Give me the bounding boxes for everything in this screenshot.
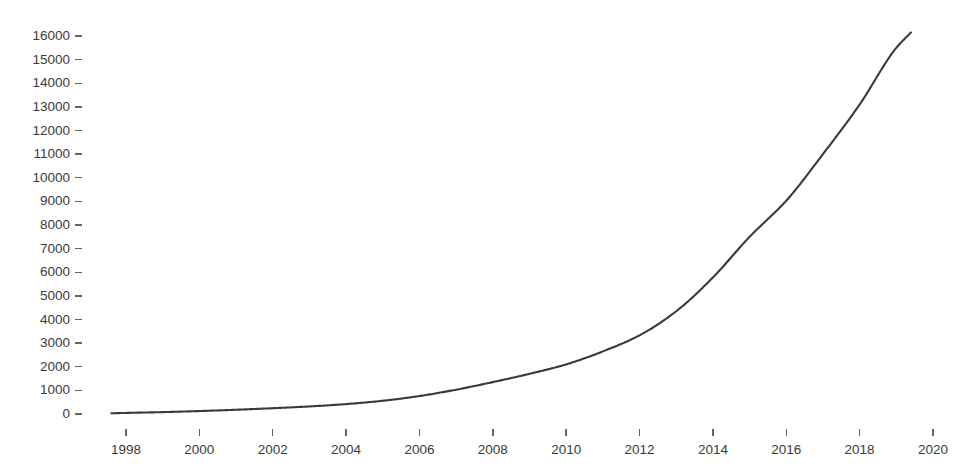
x-axis-tick-mark [272, 429, 273, 436]
y-axis-tick-label: 13000 [0, 100, 70, 114]
y-axis-tick-mark [75, 59, 82, 60]
y-axis-tick-mark [75, 201, 82, 202]
x-axis-tick-mark [199, 429, 200, 436]
y-axis-tick-label: 10000 [0, 171, 70, 185]
x-axis-tick-label: 2016 [746, 443, 826, 457]
y-axis-tick-mark [75, 130, 82, 131]
y-axis-tick-label: 6000 [0, 265, 70, 279]
x-axis-tick-mark [419, 429, 420, 436]
x-axis-tick-label: 2002 [233, 443, 313, 457]
y-axis-tick-mark [75, 413, 82, 414]
y-axis-tick-label: 7000 [0, 242, 70, 256]
y-axis-tick-label: 4000 [0, 313, 70, 327]
chart-container: 0100020003000400050006000700080009000100… [0, 0, 973, 476]
x-axis-tick-mark [712, 429, 713, 436]
y-axis-tick-label: 12000 [0, 124, 70, 138]
x-axis-tick-mark [565, 429, 566, 436]
y-axis-tick-mark [75, 272, 82, 273]
y-axis-tick-mark [75, 83, 82, 84]
y-axis-tick-mark [75, 319, 82, 320]
x-axis-tick-mark [786, 429, 787, 436]
x-axis-tick-label: 2020 [893, 443, 973, 457]
x-axis-tick-label: 2004 [306, 443, 386, 457]
y-axis-tick-mark [75, 153, 82, 154]
y-axis-tick-mark [75, 106, 82, 107]
y-axis-tick-label: 5000 [0, 289, 70, 303]
y-axis-tick-label: 9000 [0, 194, 70, 208]
x-axis-tick-label: 1998 [86, 443, 166, 457]
x-axis-tick-label: 2006 [379, 443, 459, 457]
plot-background [0, 0, 973, 476]
y-axis-tick-label: 0 [0, 407, 70, 421]
y-axis-tick-mark [75, 248, 82, 249]
x-axis-tick-mark [859, 429, 860, 436]
x-axis-tick-mark [345, 429, 346, 436]
y-axis-tick-mark [75, 177, 82, 178]
y-axis-tick-mark [75, 295, 82, 296]
y-axis-tick-label: 1000 [0, 383, 70, 397]
y-axis-tick-mark [75, 390, 82, 391]
x-axis-tick-mark [639, 429, 640, 436]
y-axis-tick-label: 8000 [0, 218, 70, 232]
x-axis-tick-mark [492, 429, 493, 436]
y-axis-tick-mark [75, 224, 82, 225]
y-axis-tick-label: 11000 [0, 147, 70, 161]
y-axis-tick-label: 3000 [0, 336, 70, 350]
y-axis-tick-mark [75, 35, 82, 36]
x-axis-tick-label: 2010 [526, 443, 606, 457]
line-chart-plot [0, 0, 973, 476]
x-axis-tick-mark [932, 429, 933, 436]
x-axis-tick-label: 2014 [673, 443, 753, 457]
x-axis-tick-mark [125, 429, 126, 436]
x-axis-tick-label: 2008 [453, 443, 533, 457]
x-axis-tick-label: 2018 [820, 443, 900, 457]
y-axis-tick-mark [75, 366, 82, 367]
x-axis-tick-label: 2012 [600, 443, 680, 457]
x-axis-tick-label: 2000 [159, 443, 239, 457]
y-axis-tick-label: 15000 [0, 53, 70, 67]
y-axis-tick-label: 2000 [0, 360, 70, 374]
y-axis-tick-label: 14000 [0, 76, 70, 90]
y-axis-tick-mark [75, 342, 82, 343]
y-axis-tick-label: 16000 [0, 29, 70, 43]
